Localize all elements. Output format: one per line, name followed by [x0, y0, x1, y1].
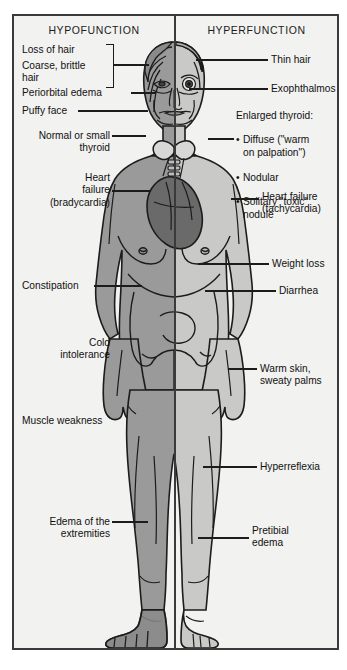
leader-thin-hair	[196, 59, 268, 61]
leader-constipation	[94, 285, 142, 287]
leader-pretibial-edema	[198, 537, 249, 539]
label-pretibial-edema: Pretibial edema	[252, 525, 332, 550]
label-heart-failure-tachycardia: Heart failure (tachycardia)	[262, 191, 346, 216]
leader-warm-skin	[228, 368, 257, 370]
leader-heart-failure-hyper	[231, 198, 259, 200]
leader-edema-extremities	[112, 521, 148, 523]
label-diarrhea: Diarrhea	[279, 285, 341, 297]
column-header-hypofunction: HYPOFUNCTION	[14, 24, 174, 36]
leader-heart-failure-hypo	[112, 190, 150, 192]
label-heart-failure-bradycardia: Heart failure (bradycardia)	[14, 172, 110, 209]
label-weight-loss: Weight loss	[272, 258, 344, 270]
label-enlarged-thyroid-title: Enlarged thyroid:	[236, 110, 344, 122]
leader-diarrhea	[205, 290, 276, 292]
leader-periorbital-edema	[131, 92, 156, 94]
thyroid-comparison-figure: HYPOFUNCTION HYPERFUNCTION Loss of hair …	[0, 0, 347, 670]
leader-thyroid-hypo	[112, 135, 146, 137]
enlarged-thyroid-item-diffuse: Diffuse ("warm on palpation")	[236, 134, 340, 159]
label-muscle-weakness: Muscle weakness	[22, 415, 142, 427]
enlarged-thyroid-item-nodular: Nodular	[236, 172, 340, 184]
leader-enlarged-thyroid	[208, 138, 234, 140]
leader-puffy-face	[78, 110, 148, 112]
label-periorbital-edema: Periorbital edema	[22, 87, 132, 99]
leader-weight-loss	[198, 263, 269, 265]
label-thin-hair: Thin hair	[271, 54, 343, 66]
leader-hair-group	[113, 64, 149, 66]
label-coarse-brittle-hair-line1: Coarse, brittle	[22, 60, 117, 72]
hypo-hyper-divider	[174, 14, 176, 650]
label-normal-or-small-thyroid: Normal or small thyroid	[14, 130, 110, 155]
label-exophthalmos: Exophthalmos	[271, 83, 347, 95]
label-edema-of-extremities: Edema of the extremities	[14, 516, 110, 541]
enlarged-thyroid-list: Diffuse ("warm on palpation") Nodular So…	[236, 122, 340, 234]
label-coarse-brittle-hair-line2: hair	[22, 72, 117, 84]
label-hyperreflexia: Hyperreflexia	[260, 461, 344, 473]
hair-labels-bracket	[106, 44, 114, 88]
column-header-hyperfunction: HYPERFUNCTION	[176, 24, 337, 36]
leader-hyperreflexia	[203, 466, 257, 468]
label-cold-intolerance: Cold intolerance	[14, 337, 110, 362]
label-loss-of-hair: Loss of hair	[22, 44, 117, 56]
leader-exophthalmos	[189, 88, 268, 90]
label-warm-skin-sweaty-palms: Warm skin, sweaty palms	[260, 363, 344, 388]
